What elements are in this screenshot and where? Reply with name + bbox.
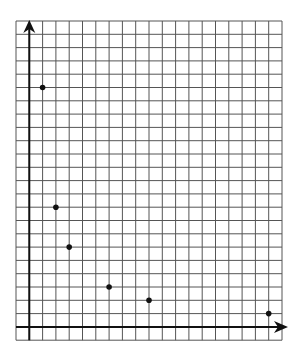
grid-lines bbox=[16, 21, 282, 340]
data-point bbox=[266, 311, 272, 317]
data-point bbox=[146, 298, 152, 304]
data-points bbox=[40, 85, 272, 317]
data-point bbox=[66, 244, 72, 250]
data-point bbox=[40, 85, 46, 91]
data-point bbox=[106, 284, 112, 290]
data-point bbox=[53, 204, 59, 210]
coordinate-grid-chart bbox=[0, 0, 298, 358]
